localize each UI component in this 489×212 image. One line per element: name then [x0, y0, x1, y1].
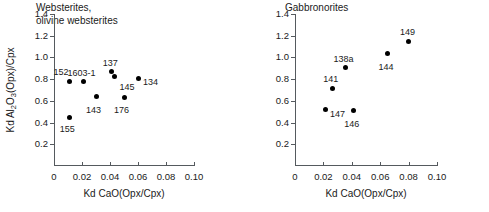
data-point — [67, 79, 72, 84]
chart-panel-websterites: Websterites, olivine websterites Kd Al2O… — [0, 0, 245, 212]
data-point — [330, 86, 335, 91]
data-point — [343, 65, 348, 70]
data-point — [122, 95, 127, 100]
data-point-label: 138a — [333, 55, 353, 64]
y-axis-tick — [50, 36, 54, 37]
data-point-label: 149 — [400, 28, 415, 37]
y-axis-line — [54, 14, 55, 166]
plot-area: Kd CaO(Opx/Cpx) 0.20.40.60.81.01.21.400.… — [295, 14, 437, 166]
x-axis-tick — [409, 162, 410, 166]
y-axis-title-sub-3: 3 — [8, 93, 17, 97]
panel-title: Gabbronorites — [285, 2, 348, 15]
data-point — [136, 76, 141, 81]
x-axis-tick-label: 0.10 — [428, 172, 447, 182]
data-point-label: 134 — [143, 78, 158, 87]
x-axis-tick — [380, 162, 381, 166]
y-axis-tick — [50, 123, 54, 124]
y-axis-title-text: Kd Al — [5, 109, 16, 132]
data-point-label: 1603-1 — [67, 69, 95, 78]
y-axis-tick-label: 0.6 — [276, 96, 289, 106]
y-axis-tick-label: 1.4 — [276, 9, 289, 19]
x-axis-tick-label: 0.06 — [129, 172, 148, 182]
x-axis-tick — [82, 162, 83, 166]
x-axis-tick-label: 0.04 — [101, 172, 120, 182]
x-axis-tick — [323, 162, 324, 166]
x-axis-tick-label: 0.04 — [343, 172, 362, 182]
data-point-label: 137 — [103, 59, 118, 68]
x-axis-title: Kd CaO(Opx/Cpx) — [83, 188, 164, 199]
y-axis-tick-label: 1.2 — [35, 31, 48, 41]
data-point — [323, 107, 328, 112]
data-point-label: 152 — [53, 68, 68, 77]
x-axis-tick-label: 0.02 — [314, 172, 333, 182]
y-axis-tick-label: 0.6 — [35, 96, 48, 106]
x-axis-tick-label: 0.02 — [73, 172, 92, 182]
data-point — [67, 115, 72, 120]
data-point — [385, 51, 390, 56]
y-axis-line — [295, 14, 296, 166]
x-axis-tick — [352, 162, 353, 166]
data-point — [109, 69, 114, 74]
x-axis-tick — [437, 162, 438, 166]
x-axis-tick — [138, 162, 139, 166]
x-axis-title: Kd CaO(Opx/Cpx) — [325, 188, 406, 199]
x-axis-tick — [110, 162, 111, 166]
y-axis-tick-label: 0.2 — [276, 140, 289, 150]
data-point-label: 145 — [119, 83, 134, 92]
x-axis-tick-label: 0.08 — [157, 172, 176, 182]
data-point — [112, 74, 117, 79]
x-axis-tick-label: 0.06 — [371, 172, 390, 182]
data-point-label: 155 — [60, 125, 75, 134]
data-point — [94, 94, 99, 99]
x-axis-line — [295, 165, 437, 166]
data-point-label: 147 — [330, 110, 345, 119]
data-point — [81, 79, 86, 84]
y-axis-tick — [291, 144, 295, 145]
y-axis-tick — [291, 123, 295, 124]
y-axis-tick — [50, 57, 54, 58]
y-axis-tick-label: 0.2 — [35, 140, 48, 150]
y-axis-tick — [50, 79, 54, 80]
y-axis-title: Kd Al2O3(Opx)/Cpx — [5, 47, 16, 132]
data-point — [351, 108, 356, 113]
y-axis-tick — [291, 14, 295, 15]
y-axis-tick-label: 1.2 — [276, 31, 289, 41]
y-axis-tick — [50, 14, 54, 15]
plot-area: Kd Al2O3(Opx)/Cpx Kd CaO(Opx/Cpx) 0.20.4… — [54, 14, 194, 166]
data-point-label: 176 — [114, 106, 129, 115]
y-axis-tick — [291, 57, 295, 58]
x-axis-tick-label: 0.08 — [399, 172, 418, 182]
x-axis-tick — [166, 162, 167, 166]
scatter-figure: Websterites, olivine websterites Kd Al2O… — [0, 0, 489, 212]
data-point-label: 146 — [344, 120, 359, 129]
y-axis-tick-label: 1.4 — [35, 9, 48, 19]
y-axis-tick — [50, 101, 54, 102]
y-axis-tick-label: 0.4 — [276, 118, 289, 128]
x-axis-tick-label: 0.10 — [185, 172, 204, 182]
data-point — [406, 39, 411, 44]
x-axis-tick — [194, 162, 195, 166]
y-axis-tick-label: 0.8 — [276, 74, 289, 84]
y-axis-tick-label: 1.0 — [35, 53, 48, 63]
x-axis-tick-label: 0 — [51, 172, 56, 182]
y-axis-tick — [291, 101, 295, 102]
x-axis-tick-label: 0 — [292, 172, 297, 182]
y-axis-title-sub-2: 2 — [8, 105, 17, 109]
y-axis-tick — [291, 36, 295, 37]
y-axis-tick — [50, 144, 54, 145]
y-axis-tick-label: 0.8 — [35, 74, 48, 84]
chart-panel-gabbronorites: Gabbronorites Kd CaO(Opx/Cpx) 0.20.40.60… — [245, 0, 489, 212]
data-point-label: 141 — [323, 75, 338, 84]
y-axis-tick-label: 1.0 — [276, 53, 289, 63]
x-axis-line — [54, 165, 194, 166]
y-axis-title-tail: (Opx)/Cpx — [5, 47, 16, 93]
data-point-label: 143 — [86, 106, 101, 115]
y-axis-tick-label: 0.4 — [35, 118, 48, 128]
data-point-label: 144 — [379, 63, 394, 72]
y-axis-tick — [291, 79, 295, 80]
